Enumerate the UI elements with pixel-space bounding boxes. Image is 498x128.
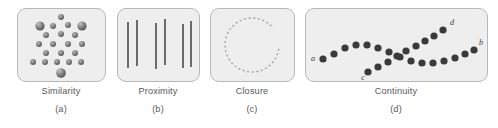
similarity-dot-small [50,23,56,29]
continuity-label-c: c [361,73,365,82]
similarity-dot-small [54,59,60,65]
similarity-dot-small [65,22,71,28]
continuity-dot-a-b [418,59,425,66]
continuity-dot-c-d [384,58,391,65]
continuity-dot-a-b [374,44,381,51]
similarity-dot-small [43,32,49,38]
similarity-dot-small [42,59,48,65]
closure-arc [225,18,279,72]
continuity-dot-c-d [421,37,428,44]
continuity-dot-c-d [402,47,409,54]
similarity-dot-small [36,41,42,47]
similarity-dot-small [58,14,64,20]
continuity-dot-group [319,26,477,75]
continuity-dot-c-d [364,68,371,75]
continuity-label-b: b [479,38,483,47]
caption-letter-closure: (c) [191,104,313,114]
continuity-dot-c-d [430,32,437,39]
gestalt-principles-figure: abcd Similarity (a) Proximity (b) Closur… [0,0,498,128]
continuity-dot-a-b [363,41,370,48]
similarity-dot-large [77,21,86,30]
continuity-dot-c-d [374,63,381,70]
similarity-dot-small [79,41,85,47]
continuity-dot-a-b [451,54,458,61]
similarity-dot-large [56,68,66,78]
continuity-dot-a-b [470,46,477,53]
continuity-dot-c-d [412,42,419,49]
similarity-dot-small [58,31,64,37]
continuity-dot-c-d [439,26,446,33]
continuity-dot-a-b [429,59,436,66]
similarity-dot-small [72,32,78,38]
continuity-dot-a-b [319,55,326,62]
continuity-dot-a-b [352,41,359,48]
similarity-dot-small [43,50,49,56]
continuity-dot-a-b [407,57,414,64]
similarity-dot-group [30,14,87,78]
continuity-dot-a-b [330,50,337,57]
similarity-dot-small [58,50,64,56]
similarity-dot-small [66,59,72,65]
caption-letter-continuity: (d) [335,104,457,114]
continuity-dot-a-b [461,50,468,57]
similarity-dot-small [72,50,78,56]
continuity-dot-c-d [393,52,400,59]
continuity-dot-a-b [385,48,392,55]
similarity-dot-small [50,41,56,47]
caption-name-closure: Closure [191,86,313,96]
continuity-dot-a-b [440,57,447,64]
continuity-label-a: a [311,54,315,63]
continuity-dot-a-b [341,44,348,51]
similarity-dot-small [30,59,36,65]
continuity-endpoint-labels: abcd [311,18,483,82]
proximity-line-group [128,19,191,69]
closure-dashed-circle [225,18,279,72]
similarity-dot-large [35,21,44,30]
continuity-label-d: d [450,18,455,27]
similarity-dot-small [65,41,71,47]
caption-name-continuity: Continuity [335,86,457,96]
similarity-dot-small [78,59,84,65]
